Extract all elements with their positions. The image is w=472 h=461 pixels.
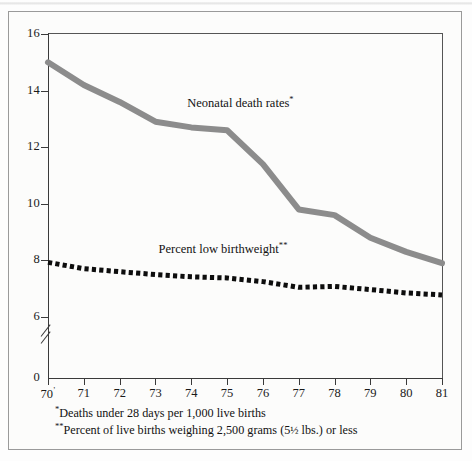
footnote-2-fraction: ½ [290,424,298,436]
annotation-birthweight-text: Percent low birthweight [159,242,279,256]
footnote-2-text-b: lbs.) or less [299,423,358,437]
annotation-neonatal-text: Neonatal death rates [187,96,289,110]
footnote-line-1: *Deaths under 28 days per 1,000 live bir… [55,404,357,421]
footnote-2-marker: ** [55,421,64,431]
annotation-birthweight-marker: ** [279,240,288,250]
annotation-percent-low-birthweight: Percent low birthweight** [159,240,288,257]
series-canvas [0,0,472,461]
series-percent-low-birthweight [48,262,442,295]
figure-root: 16141210860 70’7172737475767778798081 Ne… [0,0,472,461]
series-neonatal-death-rates [48,62,442,263]
footnote-1-text: Deaths under 28 days per 1,000 live birt… [59,406,265,420]
annotation-neonatal-marker: * [289,94,294,104]
footnote-2-text-a: Percent of live births weighing 2,500 gr… [64,423,291,437]
footnotes-block: *Deaths under 28 days per 1,000 live bir… [55,404,357,438]
annotation-neonatal-death-rates: Neonatal death rates* [187,94,294,111]
footnote-line-2: **Percent of live births weighing 2,500 … [55,421,357,438]
